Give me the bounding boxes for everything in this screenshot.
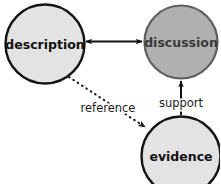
diagram-svg: description discussion evidence support … xyxy=(0,0,220,184)
node-discussion-label: discussion xyxy=(144,35,218,50)
node-evidence[interactable]: evidence xyxy=(142,117,221,185)
edge-description-evidence[interactable]: reference xyxy=(69,77,145,127)
node-description-label: description xyxy=(5,37,84,52)
edge-evidence-discussion[interactable]: support xyxy=(159,81,204,115)
node-description[interactable]: description xyxy=(5,5,84,84)
node-discussion[interactable]: discussion xyxy=(144,6,218,79)
edge-label-reference: reference xyxy=(81,101,136,115)
diagram-canvas: description discussion evidence support … xyxy=(0,0,220,184)
edge-label-support: support xyxy=(159,96,204,110)
node-evidence-label: evidence xyxy=(149,149,212,164)
